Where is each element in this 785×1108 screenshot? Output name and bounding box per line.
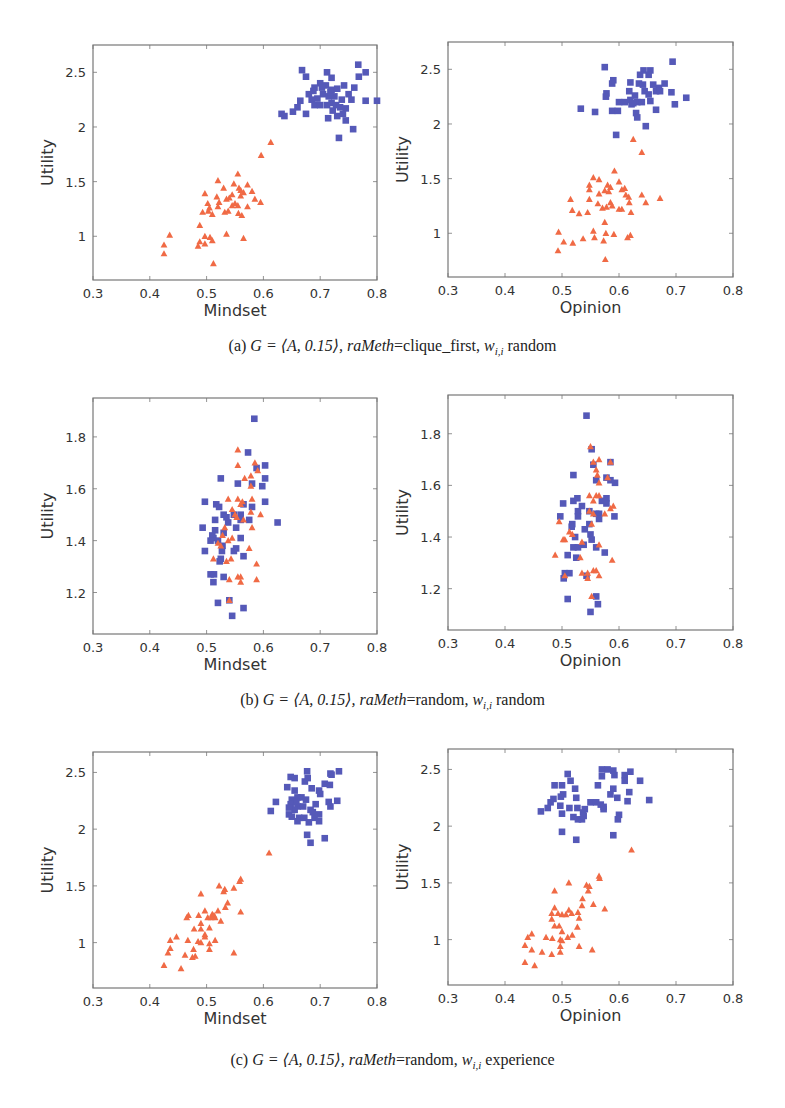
x-tick-label: 0.3: [438, 991, 459, 1006]
y-tick-label: 2: [433, 819, 441, 834]
x-tick-label: 0.4: [139, 994, 160, 1009]
y-tick-label: 1: [78, 936, 86, 951]
scatter-plot: 0.30.40.50.60.70.811.522.5MindsetUtility: [0, 0, 392, 1108]
x-tick-label: 0.7: [310, 994, 331, 1009]
y-tick-label: 1.5: [420, 876, 441, 891]
y-axis-label: Utility: [393, 843, 412, 890]
scatter-plot: 0.30.40.50.60.70.811.522.5OpinionUtility: [392, 0, 785, 1108]
x-tick-label: 0.7: [666, 991, 687, 1006]
x-axis-label: Mindset: [204, 1009, 267, 1028]
x-axis-label: Opinion: [560, 1006, 622, 1025]
square-markers: [267, 768, 342, 846]
x-tick-label: 0.5: [196, 994, 217, 1009]
chart-c-right: 0.30.40.50.60.70.811.522.5OpinionUtility: [392, 0, 785, 1108]
x-tick-label: 0.8: [367, 994, 388, 1009]
caption-c: (c) G = ⟨A, 0.15⟩, raMeth=random, wi,i e…: [0, 1050, 785, 1073]
x-tick-label: 0.8: [723, 991, 744, 1006]
y-tick-label: 1: [433, 933, 441, 948]
y-tick-label: 2: [78, 822, 86, 837]
triangle-markers: [161, 849, 273, 971]
y-tick-label: 2.5: [65, 765, 86, 780]
x-tick-label: 0.5: [552, 991, 573, 1006]
y-tick-label: 2.5: [420, 762, 441, 777]
x-tick-label: 0.3: [83, 994, 104, 1009]
y-tick-label: 1.5: [65, 879, 86, 894]
x-tick-label: 0.6: [609, 991, 630, 1006]
square-markers: [538, 766, 653, 843]
y-axis-label: Utility: [38, 846, 57, 893]
x-tick-label: 0.6: [253, 994, 274, 1009]
triangle-markers: [522, 846, 635, 968]
x-tick-label: 0.4: [495, 991, 516, 1006]
chart-c-left: 0.30.40.50.60.70.811.522.5MindsetUtility: [0, 0, 392, 1108]
